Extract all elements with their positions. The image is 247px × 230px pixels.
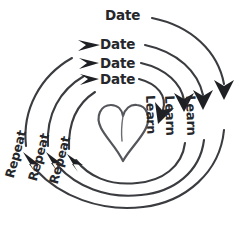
arc-repeat-sweep-3: [58, 166, 141, 196]
label-date-3: Date: [100, 57, 135, 71]
arc-learn-to-repeat-2: [137, 143, 185, 183]
arc-repeat-to-date-2: [69, 92, 95, 149]
label-learn-3: Learn: [144, 95, 158, 134]
arc-repeat-sweep-2: [76, 160, 137, 184]
label-date-1: Date: [105, 9, 140, 23]
diagram-canvas: [0, 0, 247, 230]
arrowhead-date-inner: [80, 74, 99, 85]
arrowhead-repeat-inner: [67, 154, 83, 172]
arc-learn-to-repeat-4: [143, 130, 224, 207]
label-date-4: Date: [100, 73, 135, 87]
label-learn-1: Learn: [184, 95, 198, 136]
arrowhead-date-mid: [79, 58, 99, 69]
arrowhead-date-outer: [78, 40, 100, 51]
heart-icon: [99, 105, 149, 161]
label-learn-2: Learn: [163, 95, 177, 136]
label-date-2: Date: [100, 38, 135, 52]
cycle-diagram: Date Date Date Date Learn Learn Learn Re…: [0, 0, 247, 230]
arc-date-to-learn-3: [145, 45, 203, 95]
